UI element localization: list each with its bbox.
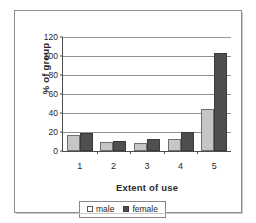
x-tick-label: 4: [178, 161, 183, 171]
bar-female-4: [181, 132, 194, 151]
x-axis-title: Extent of use: [63, 182, 231, 193]
y-tick-label: 40: [49, 108, 58, 118]
y-tick-label: 80: [49, 70, 58, 80]
bar-male-3: [134, 143, 147, 151]
bar-group: [197, 37, 231, 151]
legend-swatch-female-icon: [123, 206, 129, 212]
bar-female-3: [147, 139, 160, 151]
bar-female-1: [80, 133, 93, 151]
chart-figure: % of group 020406080100120 12345 Extent …: [0, 0, 256, 223]
bar-group: [97, 37, 131, 151]
y-tick-label: 60: [49, 89, 58, 99]
bar-group: [130, 37, 164, 151]
bar-male-1: [67, 135, 80, 151]
bar-group: [164, 37, 198, 151]
legend-label-male: male: [96, 204, 114, 214]
legend-item-female: female: [123, 204, 158, 214]
legend-swatch-male-icon: [87, 206, 93, 212]
y-tick-label: 120: [44, 32, 58, 42]
plot-area: 020406080100120 12345: [63, 37, 231, 151]
chart-legend: male female: [79, 201, 166, 218]
bar-male-5: [201, 109, 214, 151]
x-tick-mark: [97, 151, 98, 154]
bar-female-2: [113, 141, 126, 151]
y-tick-label: 0: [53, 146, 58, 156]
bar-male-4: [168, 139, 181, 151]
x-tick-mark: [197, 151, 198, 154]
bar-group: [63, 37, 97, 151]
x-tick-label: 5: [212, 161, 217, 171]
x-tick-mark: [164, 151, 165, 154]
bar-male-2: [100, 142, 113, 151]
bar-female-5: [214, 53, 227, 151]
chart-frame: % of group 020406080100120 12345 Extent …: [14, 10, 242, 213]
x-tick-label: 3: [144, 161, 149, 171]
x-tick-mark: [130, 151, 131, 154]
x-axis-line: [62, 151, 231, 152]
x-tick-label: 2: [111, 161, 116, 171]
x-tick-label: 1: [77, 161, 82, 171]
legend-label-female: female: [132, 204, 158, 214]
legend-item-male: male: [87, 204, 114, 214]
y-tick-label: 100: [44, 51, 58, 61]
y-tick-label: 20: [49, 127, 58, 137]
